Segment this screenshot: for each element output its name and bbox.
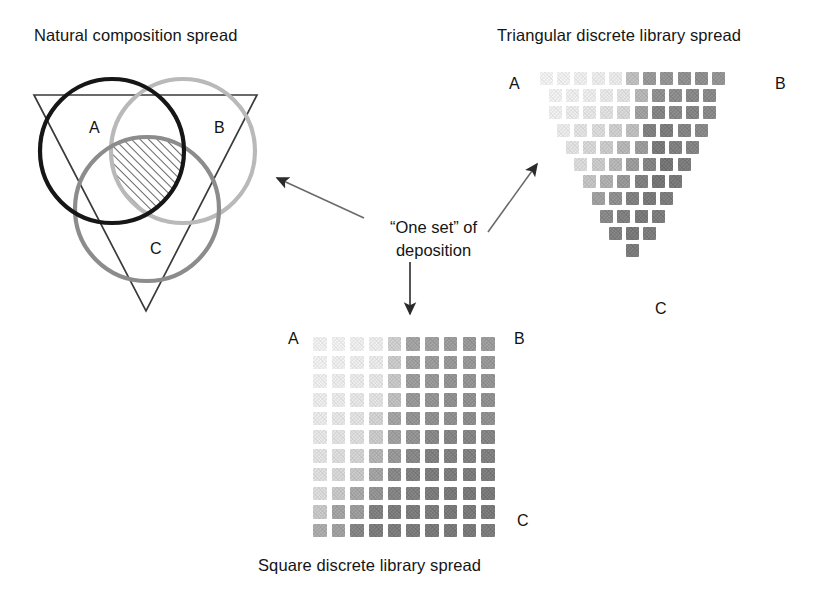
library-cell — [406, 430, 420, 444]
library-cell — [425, 524, 439, 538]
library-cell — [350, 412, 364, 426]
library-cell — [388, 374, 402, 388]
library-cell — [481, 449, 495, 463]
library-cell — [574, 124, 587, 137]
library-cell — [425, 468, 439, 482]
library-cell — [669, 106, 682, 119]
library-cell — [635, 210, 648, 223]
library-cell — [332, 337, 346, 351]
library-cell — [369, 374, 383, 388]
square-label-b: B — [514, 330, 525, 348]
library-cell — [566, 141, 579, 154]
library-cell — [600, 89, 613, 102]
library-cell — [686, 141, 699, 154]
library-cell-row — [313, 374, 500, 388]
library-cell — [425, 412, 439, 426]
library-cell — [609, 124, 622, 137]
library-cell — [313, 356, 327, 370]
library-cell — [481, 356, 495, 370]
library-cell — [660, 124, 673, 137]
library-cell — [540, 72, 553, 85]
library-cell — [686, 89, 699, 102]
library-cell — [369, 449, 383, 463]
library-cell-row — [583, 175, 729, 188]
library-cell — [463, 449, 477, 463]
library-cell — [425, 449, 439, 463]
library-cell — [481, 374, 495, 388]
library-cell-row — [313, 412, 500, 426]
library-cell — [463, 468, 477, 482]
library-cell — [583, 175, 596, 188]
library-cell — [463, 374, 477, 388]
library-cell — [592, 158, 605, 171]
library-cell — [369, 487, 383, 501]
library-cell — [369, 468, 383, 482]
library-cell — [549, 106, 562, 119]
library-cell — [481, 524, 495, 538]
library-cell — [388, 430, 402, 444]
library-cell — [617, 106, 630, 119]
library-cell — [406, 356, 420, 370]
library-cell-row — [313, 430, 500, 444]
library-cell — [406, 393, 420, 407]
library-cell — [406, 468, 420, 482]
library-cell — [557, 124, 570, 137]
library-cell-row — [313, 356, 500, 370]
library-cell — [583, 141, 596, 154]
library-cell-row — [313, 468, 500, 482]
center-caption-line2: deposition — [376, 239, 491, 262]
library-cell — [643, 158, 656, 171]
library-cell — [626, 72, 639, 85]
library-cell — [643, 124, 656, 137]
center-caption-line1: “One set” of — [376, 216, 491, 239]
library-cell-row — [609, 227, 729, 240]
library-cell — [350, 505, 364, 519]
library-cell — [332, 356, 346, 370]
library-cell — [566, 106, 579, 119]
library-cell — [350, 524, 364, 538]
library-cell — [350, 356, 364, 370]
library-cell — [626, 124, 639, 137]
library-cell — [313, 374, 327, 388]
library-cell — [669, 141, 682, 154]
library-cell — [313, 449, 327, 463]
library-cell — [463, 356, 477, 370]
library-cell-row — [566, 141, 729, 154]
library-cell — [617, 210, 630, 223]
library-cell — [425, 487, 439, 501]
library-cell — [350, 337, 364, 351]
library-cell — [557, 72, 570, 85]
library-cell-row — [313, 505, 500, 519]
library-cell — [369, 430, 383, 444]
library-cell — [444, 374, 458, 388]
library-cell — [388, 337, 402, 351]
square-spread-grid — [313, 337, 500, 543]
triangular-label-c: C — [655, 300, 667, 318]
library-cell — [600, 141, 613, 154]
library-cell — [660, 158, 673, 171]
library-cell — [313, 430, 327, 444]
triangular-spread-grid — [540, 72, 729, 261]
library-cell — [406, 374, 420, 388]
library-cell — [313, 337, 327, 351]
library-cell — [406, 412, 420, 426]
library-cell — [332, 505, 346, 519]
library-cell — [350, 393, 364, 407]
library-cell — [388, 468, 402, 482]
library-cell — [609, 227, 622, 240]
library-cell — [388, 412, 402, 426]
library-cell — [425, 505, 439, 519]
library-cell — [481, 337, 495, 351]
triangular-label-b: B — [775, 75, 786, 93]
library-cell-row — [313, 487, 500, 501]
library-cell — [635, 89, 648, 102]
library-cell — [678, 124, 691, 137]
library-cell — [313, 487, 327, 501]
arrow-to-venn — [277, 178, 364, 218]
library-cell — [350, 449, 364, 463]
arrow-to-triangular-spread — [488, 164, 537, 232]
library-cell — [574, 72, 587, 85]
library-cell — [332, 393, 346, 407]
library-cell — [350, 374, 364, 388]
library-cell-row — [549, 106, 729, 119]
